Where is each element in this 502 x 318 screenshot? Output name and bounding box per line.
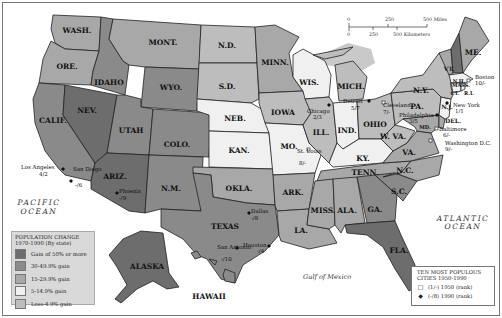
svg-text:500 Kilometers: 500 Kilometers [393,32,431,37]
legend-item: 5-14.9% gain [15,286,91,296]
svg-text:OCEAN: OCEAN [21,207,58,216]
svg-text:2/3: 2/3 [313,114,322,120]
svg-text:MICH.: MICH. [337,82,364,91]
svg-text:TENN.: TENN. [351,168,378,177]
svg-text:Cleveland: Cleveland [383,102,411,108]
svg-text:N.Y.: N.Y. [413,86,429,95]
svg-text:FLA.: FLA. [389,246,408,255]
svg-text:CALIF.: CALIF. [39,116,67,125]
svg-text:4/2: 4/2 [39,171,48,177]
svg-text:TEXAS: TEXAS [211,222,239,231]
svg-text:MINN.: MINN. [261,58,289,67]
svg-text:-/4: -/4 [257,248,265,254]
svg-text:NEV.: NEV. [77,106,97,115]
svg-text:ME.: ME. [465,48,482,57]
svg-text:MO.: MO. [280,142,297,151]
state-ariz [91,153,149,213]
population-change-legend: POPULATION CHANGE 1970-1990 (By state) G… [11,231,95,305]
svg-text:N.M.: N.M. [161,184,181,193]
square-icon: □ [417,283,424,290]
svg-text:Detroit: Detroit [343,98,364,104]
svg-text:WIS.: WIS. [298,78,319,87]
scale-bar: 0 250 500 Miles 0 250 500 Kilometers [347,17,447,37]
svg-text:PA.: PA. [410,102,424,111]
svg-text:IND.: IND. [337,126,356,135]
state-colo [149,109,211,157]
svg-text:MONT.: MONT. [149,38,178,47]
swatch-icon [15,261,26,271]
svg-text:PACIFIC: PACIFIC [17,198,61,207]
svg-text:OCEAN: OCEAN [445,222,482,231]
svg-text:WYO.: WYO. [159,83,182,92]
svg-text:0: 0 [347,17,350,22]
svg-text:10/-: 10/- [475,80,486,86]
svg-text:CT.: CT. [451,90,460,96]
legend-item: 30-49.9% gain [15,261,91,271]
swatch-icon [15,274,26,284]
state-fla [345,221,417,291]
diamond-icon: ◆ [417,292,424,299]
svg-text:Phoenix: Phoenix [119,188,142,194]
legend-item: Gain of 50% or more [15,249,91,259]
swatch-icon [15,249,26,259]
svg-text:GA.: GA. [368,205,383,214]
svg-text:ORE.: ORE. [56,62,77,71]
svg-text:VT.: VT. [443,65,454,72]
svg-text:ALASKA: ALASKA [129,262,165,271]
legend-title: TEN MOST POPULOUS CITIES 1950-1990 [417,269,489,281]
svg-text:IOWA: IOWA [271,108,295,117]
svg-text:MASS.: MASS. [452,82,470,88]
svg-text:8/-: 8/- [299,160,306,166]
svg-text:-/9: -/9 [119,195,127,201]
svg-text:S.D.: S.D. [219,82,236,91]
svg-text:COLO.: COLO. [164,140,190,149]
svg-text:N.D.: N.D. [218,41,236,50]
svg-text:W. VA.: W. VA. [379,132,406,141]
populous-cities-legend: TEN MOST POPULOUS CITIES 1950-1990 □(1/-… [411,266,495,306]
svg-text:Gulf of Mexico: Gulf of Mexico [303,273,351,281]
svg-text:250: 250 [385,17,394,22]
legend-item: Loss-4.9% gain [15,299,91,309]
svg-text:Dallas: Dallas [251,208,268,214]
svg-text:Los Angeles: Los Angeles [21,164,55,171]
svg-text:ALA.: ALA. [336,206,357,215]
svg-text:LA.: LA. [294,226,308,235]
svg-text:1/1: 1/1 [455,108,464,114]
svg-text:N.C.: N.C. [396,166,413,175]
svg-text:KAN.: KAN. [228,146,249,155]
svg-text:St. Louis: St. Louis [297,148,322,154]
legend-subtitle: 1970-1990 (By state) [15,240,91,246]
svg-text:9/-: 9/- [445,146,452,152]
svg-text:5/7: 5/7 [351,105,360,111]
svg-text:NEB.: NEB. [224,114,246,123]
svg-text:ARIZ.: ARIZ. [102,172,127,181]
legend-item: □(1/-) 1950 (rank) [417,283,489,290]
svg-text:S.C.: S.C. [391,187,407,196]
state-me [459,17,489,73]
svg-text:-/6: -/6 [75,182,83,188]
svg-text:ARK.: ARK. [281,188,303,197]
svg-text:VA.: VA. [401,148,416,157]
svg-text:OHIO: OHIO [363,120,387,129]
svg-text:OKLA.: OKLA. [226,184,253,193]
map-frame: WASH. ORE. CALIF. NEV. IDAHO MONT. WYO. … [2,2,500,316]
svg-text:-/8: -/8 [251,215,259,221]
svg-text:UTAH: UTAH [119,126,144,135]
svg-text:R.I.: R.I. [464,90,474,96]
svg-text:MD.: MD. [419,124,431,130]
svg-text:6/-: 6/- [443,132,450,138]
swatch-icon [15,299,26,309]
legend-item: ◆(-/8) 1990 (rank) [417,292,489,299]
svg-text:500 Miles: 500 Miles [423,17,447,22]
svg-text:ILL.: ILL. [313,128,330,137]
svg-text:HAWAII: HAWAII [192,292,226,301]
legend-item: 15-29.9% gain [15,274,91,284]
svg-text:-/10: -/10 [221,256,232,262]
svg-text:DEL.: DEL. [445,117,461,124]
svg-text:0: 0 [347,32,350,37]
swatch-icon [15,286,26,296]
svg-text:7/-: 7/- [383,109,390,115]
svg-text:IDAHO: IDAHO [94,78,124,87]
svg-text:KY.: KY. [356,154,369,163]
svg-text:3/5: 3/5 [409,118,418,124]
